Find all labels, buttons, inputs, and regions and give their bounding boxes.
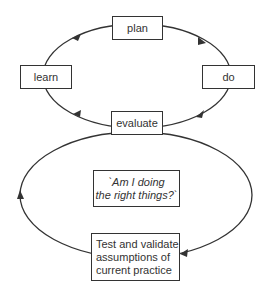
test-line-1: Test and validate <box>96 238 179 251</box>
evaluate-box: evaluate <box>111 111 163 135</box>
do-label: do <box>222 71 234 84</box>
arrow-icon <box>72 34 81 41</box>
learn-box: learn <box>20 65 72 89</box>
arrow-icon <box>196 110 204 118</box>
test-validate-box: Test and validate assumptions of current… <box>91 233 180 281</box>
plan-box: plan <box>112 16 163 40</box>
arrow-icon <box>17 190 24 199</box>
test-line-2: assumptions of <box>96 251 170 264</box>
question-line-1: `Am I doing <box>108 176 164 189</box>
question-line-2: the right things?` <box>96 189 178 202</box>
plan-label: plan <box>127 22 148 35</box>
question-box: `Am I doing the right things?` <box>93 170 180 207</box>
learn-label: learn <box>34 71 58 84</box>
test-line-3: current practice <box>96 264 172 277</box>
do-box: do <box>202 65 255 89</box>
evaluate-label: evaluate <box>116 117 158 130</box>
